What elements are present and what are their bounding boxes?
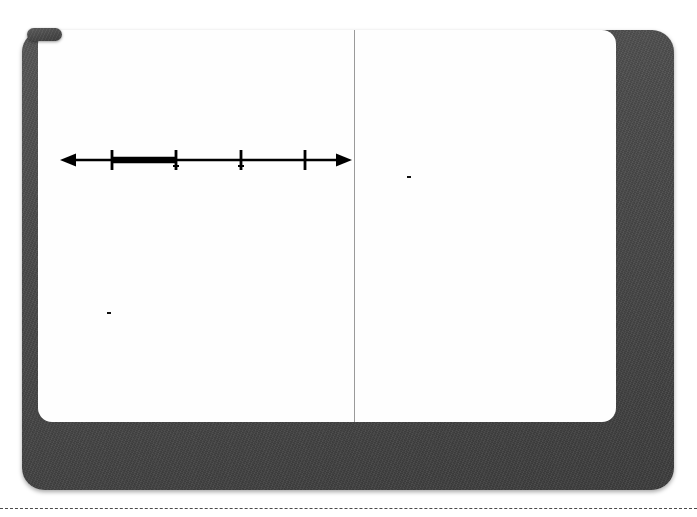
title-tab [27,28,62,41]
denominator [407,176,411,178]
page-root [0,0,697,517]
number-line-label-one-third [173,165,179,167]
denominator [173,165,179,167]
question-fraction-two-thirds [407,176,411,178]
card-inner [38,30,616,422]
question-text [406,152,614,180]
statement-text [106,288,338,316]
number-line-label-two-thirds [238,165,244,167]
denominator [107,312,111,314]
number-line-axis [56,148,356,172]
denominator [238,165,244,167]
statement-fraction-one-third [107,312,111,314]
number-line [56,148,356,228]
dashed-cut-line [0,508,697,509]
